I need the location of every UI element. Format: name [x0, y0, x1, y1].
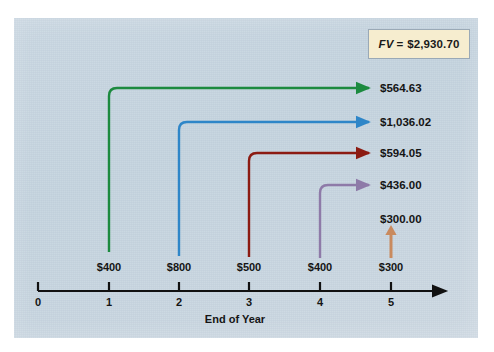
compound-path-year-2: [179, 122, 369, 256]
timeline-axis: [38, 282, 446, 291]
future-value-label-year-1: $564.63: [380, 82, 422, 94]
future-value-label-year-3: $594.05: [380, 147, 422, 159]
year-tick-label-1: 1: [106, 296, 112, 308]
fv-label: FV: [379, 38, 394, 50]
future-value-label-year-2: $1,036.02: [380, 116, 431, 128]
year-tick-label-5: 5: [388, 296, 394, 308]
year-tick-label-3: 3: [246, 296, 252, 308]
future-value-label-year-5: $300.00: [380, 213, 422, 225]
compound-path-year-4: [320, 185, 369, 258]
future-value-timeline-figure: FV = $2,930.70 $564.63 $1,036.02 $594.05…: [0, 0, 494, 352]
cash-flow-year-2: $800: [167, 261, 191, 273]
fv-total-callout: FV = $2,930.70: [368, 29, 470, 59]
future-value-label-year-4: $436.00: [380, 179, 422, 191]
cash-flow-year-4: $400: [308, 261, 332, 273]
axis-title: End of Year: [205, 313, 265, 325]
cash-flow-year-1: $400: [97, 261, 121, 273]
year-tick-label-4: 4: [317, 296, 323, 308]
cash-flow-year-3: $500: [237, 261, 261, 273]
fv-total-value: $2,930.70: [407, 38, 459, 50]
year-tick-label-2: 2: [176, 296, 182, 308]
cash-flow-year-5: $300: [379, 261, 403, 273]
compound-path-year-5: [385, 225, 396, 258]
year-tick-label-0: 0: [35, 296, 41, 308]
compound-path-year-1: [109, 88, 369, 252]
fv-equals: =: [397, 38, 404, 50]
compound-path-year-3: [249, 153, 369, 257]
